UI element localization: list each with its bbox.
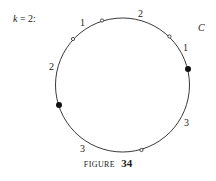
filled-point-marker [56,102,62,108]
open-point-marker [140,148,143,151]
arc-label: 2 [49,61,54,72]
figure-canvas: k = 2: C 1 2 1 2 3 3 FIGURE 34 [0,0,216,181]
caption-prefix: FIGURE [84,160,115,169]
arc-labels: 1 2 1 2 3 3 [49,8,189,154]
caption-number: 34 [121,157,133,169]
arc-label: 1 [183,42,188,53]
open-points [71,19,171,152]
open-point-marker [168,35,171,38]
open-point-marker [71,37,74,40]
arc-label: 2 [138,8,143,19]
k-value-label: k = 2: [13,13,36,24]
arc-label: 1 [80,17,85,28]
open-point-marker [100,19,103,22]
arc-label: 3 [184,117,189,128]
figure-caption: FIGURE 34 [84,153,133,170]
filled-point-marker [185,66,191,72]
filled-points [56,66,191,108]
curve-c-label: C [198,22,205,33]
arc-label: 3 [80,143,85,154]
